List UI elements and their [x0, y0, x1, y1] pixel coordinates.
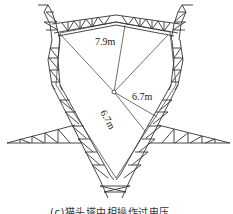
left-peak	[38, 5, 60, 40]
right-peak	[171, 5, 193, 40]
label-right-distance: 6.7m	[132, 91, 152, 102]
right-crossarm	[150, 125, 230, 143]
left-crossarm	[7, 125, 82, 143]
right-column-web	[171, 48, 183, 82]
tower-diagram: 7.9m 6.7m 6.7m (c)猫头塔中相操作过电压	[0, 0, 233, 214]
tower-drawing	[0, 0, 233, 214]
figure-caption: (c)猫头塔中相操作过电压	[50, 206, 190, 214]
label-top-distance: 7.9m	[95, 36, 115, 47]
conductor-point	[112, 90, 116, 94]
